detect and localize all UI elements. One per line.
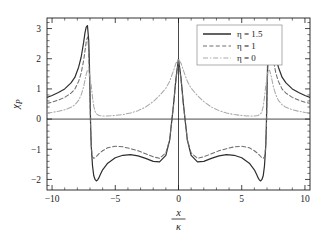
svg-text:χP: χP	[10, 99, 24, 110]
legend-label-0: η = 1.5	[237, 29, 263, 39]
plot-svg: −10−50510−2−10123η = 1.5η = 1η = 0χPxκ	[0, 0, 329, 244]
y-tick-label: 2	[36, 54, 41, 64]
y-tick-label: −1	[31, 145, 41, 155]
y-tick-label: 1	[36, 84, 41, 94]
legend-label-1: η = 1	[237, 41, 256, 51]
x-tick-label: 0	[176, 194, 181, 204]
x-tick-label: −5	[110, 194, 120, 204]
x-tick-label: 5	[239, 194, 244, 204]
y-tick-label: −2	[31, 175, 41, 185]
y-axis-label: χP	[10, 99, 24, 110]
y-tick-label: 0	[36, 114, 41, 124]
x-axis-label-numerator: x	[175, 207, 181, 218]
y-tick-label: 3	[36, 24, 41, 34]
x-tick-label: −10	[45, 194, 60, 204]
chart-figure: −10−50510−2−10123η = 1.5η = 1η = 0χPxκ	[0, 0, 329, 244]
legend-label-2: η = 0	[237, 53, 256, 63]
x-axis-label-denominator: κ	[176, 221, 182, 232]
x-tick-label: 10	[300, 194, 310, 204]
